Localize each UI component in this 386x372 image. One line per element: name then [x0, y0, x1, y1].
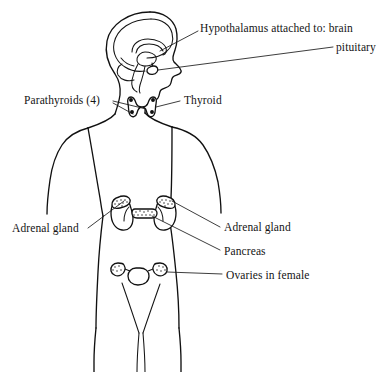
inner-leg-right-outline [143, 333, 145, 372]
shoulder-arm-left-outline [47, 128, 88, 214]
groin-right-outline [143, 284, 160, 333]
corpus-callosum-inner [136, 44, 163, 53]
torso-left-outline [96, 216, 103, 328]
cerebellum-outline [117, 64, 134, 81]
parathyroid-dot-2 [152, 99, 155, 102]
uterus [128, 268, 149, 285]
uterus-ovaries-group [111, 263, 167, 285]
hip-right-outline [179, 328, 181, 372]
label-parathyroids: Parathyroids (4) [24, 94, 100, 107]
cerebrum-outline [114, 19, 151, 71]
label-adrenal-gland-left: Adrenal gland [12, 222, 79, 235]
brainstem-outline-back [139, 66, 145, 93]
label-thyroid: Thyroid [184, 94, 222, 107]
label-adrenal-gland-right: Adrenal gland [224, 221, 291, 234]
leader-ovaries [167, 272, 222, 274]
neck-left-outline [88, 114, 115, 128]
temporal-lobe-outline [121, 58, 134, 66]
leader-hypothalamus [160, 31, 198, 51]
pituitary-gland [147, 66, 158, 74]
label-ovaries: Ovaries in female [226, 269, 309, 282]
cerebrum-outline-upper [147, 19, 173, 58]
parathyroid-dot-4 [151, 111, 154, 114]
groin-left-outline [122, 283, 139, 333]
label-pituitary: pituitary [336, 41, 376, 54]
shoulder-arm-right-outline [172, 127, 221, 213]
arm-inner-left-outline [88, 128, 103, 216]
leader-adrenal-right [172, 201, 220, 227]
thalamus-outline [137, 52, 156, 66]
anatomy-drawing [0, 0, 386, 372]
hip-left-outline [94, 328, 96, 372]
inner-leg-left-outline [137, 333, 139, 372]
label-hypothalamus: Hypothalamus attached to: brain [200, 22, 353, 35]
endocrine-system-figure: Hypothalamus attached to: brain pituitar… [0, 0, 386, 372]
leader-thyroid [156, 101, 180, 107]
label-pancreas: Pancreas [224, 245, 266, 258]
brainstem-outline [132, 64, 138, 92]
leader-pituitary [158, 47, 333, 70]
parathyroid-dot-1 [130, 99, 133, 102]
brain-group [114, 19, 173, 93]
